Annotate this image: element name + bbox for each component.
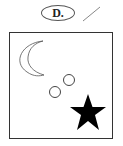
crescent-moon-icon xyxy=(20,41,44,76)
figure-shapes xyxy=(0,0,123,146)
circle-icon xyxy=(64,75,75,86)
star-icon xyxy=(70,94,106,130)
circle-icon xyxy=(50,87,61,98)
